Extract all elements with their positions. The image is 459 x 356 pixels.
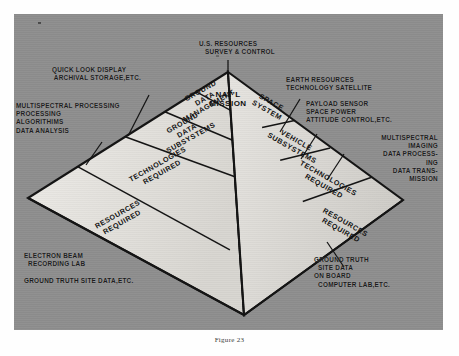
callout-left-quick-look: QUICK LOOK DISPLAY ARCHIVAL STORAGE,ETC. <box>52 66 192 82</box>
callout-right-ground-truth: GROUND TRUTH SITE DATA ON BOARD COMPUTER… <box>314 256 440 289</box>
figure-page: NAT'L MISSION U.S. RESOURCES SURVEY & CO… <box>0 0 459 356</box>
callout-right-earth-resources: EARTH RESOURCES TECHNOLOGY SATELLITE <box>286 76 406 92</box>
callout-left-electron-beam: ELECTRON BEAM RECORDING LAB GROUND TRUTH… <box>24 252 194 285</box>
callout-right-payload-sensor: PAYLOAD SENSOR SPACE POWER ATTITUDE CONT… <box>306 100 426 125</box>
callout-left-multispectral: MULTISPECTRAL PROCESSING PROCESSING ALGO… <box>16 102 166 135</box>
callout-right-multispectral-imaging: MULTISPECTRAL IMAGING DATA PROCESS- ING … <box>320 134 438 183</box>
figure-caption: Figure 23 <box>0 336 459 344</box>
photographic-plate: NAT'L MISSION U.S. RESOURCES SURVEY & CO… <box>14 14 443 330</box>
callout-top-us-resources: U.S. RESOURCES SURVEY & CONTROL <box>199 40 319 56</box>
plate-speck <box>38 22 41 24</box>
